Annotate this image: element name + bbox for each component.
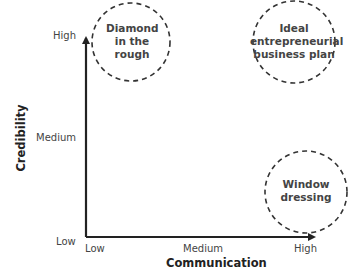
label-line: dressing [276, 191, 336, 204]
label-line: entrepreneurial [250, 35, 338, 48]
y-tick-high: High [53, 30, 76, 41]
x-tick-high: High [294, 243, 317, 254]
label-line: business plan [250, 48, 338, 61]
y-tick-medium: Medium [36, 132, 76, 143]
ideal-business-plan-label: Ideal entrepreneurial business plan [250, 22, 338, 61]
label-line: Diamond [106, 22, 158, 35]
x-tick-low: Low [85, 243, 105, 254]
x-axis-title: Communication [166, 256, 267, 270]
y-axis-title: Credibility [14, 104, 28, 171]
x-tick-medium: Medium [183, 243, 223, 254]
y-tick-low: Low [56, 236, 76, 247]
window-dressing-label: Window dressing [276, 178, 336, 204]
label-line: Ideal [250, 22, 338, 35]
diamond-in-the-rough-label: Diamond in the rough [106, 22, 158, 61]
label-line: Window [276, 178, 336, 191]
label-line: rough [106, 48, 158, 61]
label-line: in the [106, 35, 158, 48]
